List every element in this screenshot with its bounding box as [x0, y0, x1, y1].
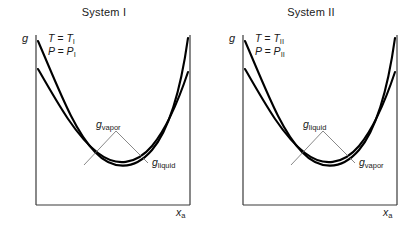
curve-label-right-subscript: liquid: [158, 161, 176, 170]
curve-lower-left: [38, 69, 188, 162]
x-axis-label-subscript: a: [388, 211, 392, 220]
condition-pressure-equals: =: [265, 45, 271, 57]
condition-pressure-lhs: P: [255, 45, 262, 57]
condition-temperature-equals: =: [57, 32, 63, 44]
condition-pressure-rhs: P: [67, 45, 74, 57]
x-axis-label: xa: [176, 206, 185, 219]
curve-label-center-base: g: [303, 118, 309, 130]
curve-label-right-base: g: [359, 156, 365, 168]
curve-label-right-subscript: vapor: [365, 161, 384, 170]
condition-pressure-lhs: P: [48, 45, 55, 57]
condition-temperature-rhs: T: [273, 32, 279, 44]
condition-temperature: T = TII: [255, 32, 284, 45]
condition-pressure: P = PII: [255, 45, 285, 58]
condition-temperature: T = TI: [48, 32, 75, 45]
y-axis-label: g: [229, 32, 235, 46]
curve-label-center-base: g: [96, 118, 102, 130]
condition-temperature-rhs: T: [66, 32, 72, 44]
condition-temperature-lhs: T: [48, 32, 54, 44]
curve-label-right-base: g: [152, 156, 158, 168]
x-axis-label-subscript: a: [181, 211, 185, 220]
curve-label-right: gvapor: [359, 156, 384, 169]
y-axis-label: g: [22, 32, 28, 46]
condition-temperature-equals: =: [264, 32, 270, 44]
condition-temperature-lhs: T: [255, 32, 261, 44]
condition-pressure-equals: =: [58, 45, 64, 57]
condition-pressure-subscript: II: [281, 50, 285, 59]
curve-label-right: gliquid: [152, 156, 175, 169]
curve-label-center-subscript: vapor: [102, 123, 121, 132]
curve-label-center: gliquid: [303, 118, 326, 131]
chart-panel-system-1: System I g xa T = TI P = PI gvapor gliqu…: [0, 0, 208, 242]
condition-pressure-rhs: P: [274, 45, 281, 57]
chart-panel-system-2: System II g xa T = TII P = PII gliquid g…: [207, 0, 415, 242]
figure-root: System I g xa T = TI P = PI gvapor gliqu…: [0, 0, 415, 242]
condition-pressure: P = PI: [48, 45, 76, 58]
curve-label-center-subscript: liquid: [309, 123, 327, 132]
x-axis-label: xa: [383, 206, 392, 219]
curve-label-center: gvapor: [96, 118, 121, 131]
curve-lower-left: [245, 69, 395, 162]
condition-pressure-subscript: I: [74, 50, 76, 59]
